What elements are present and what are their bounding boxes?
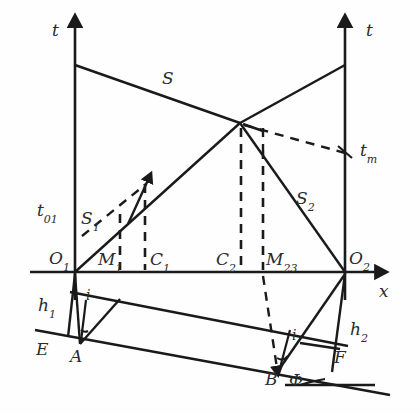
height-h1-segment [68, 274, 75, 337]
point-E-label: E [36, 341, 48, 358]
point-M1-label: M1 [98, 251, 122, 271]
worldline-S2 [240, 123, 345, 272]
t01-label: t01 [37, 202, 58, 222]
angle-i-left-label: i [86, 288, 90, 302]
angle-phi-label: Φ [289, 372, 303, 389]
point-C2-label: C2 [216, 251, 236, 271]
dashed-ray-to-B [263, 276, 277, 368]
worldline-S2-label: S2 [296, 190, 315, 210]
spacetime-diagram-figure: t t x S S1 S2 tm t01 O1 O2 M1 C1 C2 M23 … [0, 0, 420, 414]
angle-i-right-label: i [292, 328, 296, 342]
t-axis-left-label: t [52, 22, 59, 39]
worldline-S-label: S [162, 70, 174, 87]
point-M23-label: M23 [266, 251, 297, 271]
origin-O1-label: O1 [49, 250, 70, 270]
x-axis-label: x [379, 283, 389, 300]
worldline-S1-label: S1 [81, 210, 100, 230]
angle-i-left-normal [81, 300, 86, 341]
angle-i-left-arc [81, 330, 88, 332]
point-F-label: F [334, 349, 346, 366]
diagram-canvas [0, 0, 420, 414]
origin-O2-label: O2 [349, 250, 370, 270]
ray-O1-to-A [75, 274, 80, 344]
point-C1-label: C1 [150, 251, 170, 271]
point-B-label: B [265, 371, 278, 388]
t-axis-right-label: t [366, 22, 373, 39]
slab-top-line [70, 292, 348, 346]
point-A-label: A [70, 348, 82, 365]
height-h2-label: h2 [350, 321, 368, 341]
height-h1-label: h1 [38, 297, 56, 317]
worldline-S-incoming [75, 65, 240, 123]
tm-label: tm [360, 142, 377, 162]
worldline-S-outgoing [240, 65, 345, 123]
